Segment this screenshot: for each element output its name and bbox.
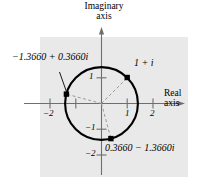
point-marker-upper-left — [64, 91, 69, 96]
point-label-upper-left: −1.3660 + 0.3660i — [12, 52, 88, 63]
tick-label-real-1: 1 — [125, 109, 130, 118]
imaginary-axis-label-line2: axis — [78, 12, 130, 22]
point-label-lower: 0.3660 − 1.3660i — [105, 143, 175, 154]
imaginary-axis-label: Imaginary axis — [78, 2, 130, 22]
tick-label-imag-neg2: −2 — [85, 149, 96, 158]
point-label-1-plus-i: 1 + i — [134, 58, 154, 69]
tick-label-imag-neg1: −1 — [85, 123, 96, 132]
point-marker-lower — [108, 136, 113, 141]
tick-label-real-neg2: −2 — [43, 109, 54, 118]
tick-label-real-2: 2 — [150, 109, 155, 118]
tick-label-imag-1: 1 — [89, 72, 94, 81]
real-axis-label-line2: axis — [164, 99, 200, 109]
imaginary-axis-arrow — [99, 27, 104, 35]
point-marker-1-plus-i — [125, 75, 130, 80]
real-axis-label: Real axis — [164, 89, 200, 109]
